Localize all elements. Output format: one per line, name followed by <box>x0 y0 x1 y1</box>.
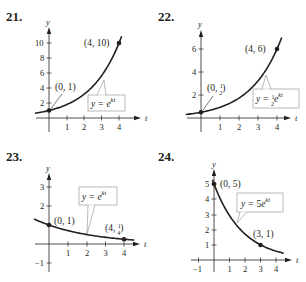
x-axis-arrow-icon <box>134 116 141 120</box>
point-0-1 <box>47 108 52 113</box>
svg-text:3: 3 <box>100 122 104 132</box>
svg-text:10: 10 <box>35 38 44 48</box>
y-axis-label: y <box>45 17 50 27</box>
point-label: (3, 1) <box>253 229 274 240</box>
svg-text:8: 8 <box>40 53 44 63</box>
graph-23: 23. t y 1 2 3 4 −1 2 3 (0, 1) ( <box>0 141 153 282</box>
graph-24: 24. t y −1 1 2 3 4 1 2 3 4 <box>153 141 306 282</box>
point-0-half <box>199 110 204 115</box>
point-0-5 <box>212 182 217 187</box>
svg-text:2: 2 <box>82 122 86 132</box>
svg-text:2: 2 <box>40 201 44 211</box>
y-axis-arrow-icon <box>212 169 216 176</box>
svg-text:4: 4 <box>205 194 210 204</box>
y-ticks: 2 4 6 <box>192 44 204 100</box>
svg-text:2: 2 <box>85 248 89 258</box>
problem-number: 24. <box>158 149 174 164</box>
graph-21-svg: 21. t y 1 2 3 4 2 4 6 8 1 <box>0 0 153 141</box>
point-label: (4, 6) <box>245 44 266 55</box>
point-3-1 <box>258 243 263 248</box>
svg-text:2: 2 <box>192 90 196 100</box>
svg-text:4: 4 <box>275 122 280 132</box>
callout-pointer <box>262 75 271 89</box>
graph-22-svg: 22. t y 1 2 3 4 2 4 6 (0, 12) (4, <box>153 0 306 141</box>
x-axis-arrow-icon <box>133 242 140 246</box>
svg-text:5: 5 <box>205 179 209 189</box>
svg-text:−1: −1 <box>193 264 202 274</box>
graph-24-svg: 24. t y −1 1 2 3 4 1 2 3 4 <box>153 141 306 282</box>
svg-text:1: 1 <box>228 264 232 274</box>
y-axis-label: y <box>45 163 50 173</box>
svg-text:2: 2 <box>205 225 209 235</box>
svg-text:1: 1 <box>205 240 209 250</box>
x-axis-label: t <box>144 239 147 249</box>
x-axis-label: t <box>296 255 299 265</box>
y-axis-arrow-icon <box>47 173 51 180</box>
svg-text:4: 4 <box>274 264 279 274</box>
problem-number: 21. <box>6 9 22 24</box>
svg-text:6: 6 <box>40 68 44 78</box>
x-axis-label: t <box>295 113 298 123</box>
callout-pointer <box>97 80 106 95</box>
svg-text:1: 1 <box>66 248 70 258</box>
leader-line <box>203 96 213 110</box>
svg-text:6: 6 <box>192 44 196 54</box>
svg-text:1: 1 <box>218 122 222 132</box>
callout-pointer <box>87 205 95 234</box>
point-label: (4, 10) <box>84 38 109 49</box>
x-axis-arrow-icon <box>284 116 291 120</box>
point-4-10 <box>117 41 122 46</box>
y-axis-arrow-icon <box>47 27 51 34</box>
graph-23-svg: 23. t y 1 2 3 4 −1 2 3 (0, 1) ( <box>0 141 153 282</box>
point-4-6 <box>275 47 280 52</box>
problem-number: 23. <box>6 149 22 164</box>
y-axis-label: y <box>211 159 216 169</box>
svg-text:4: 4 <box>117 122 122 132</box>
point-label: (0, 5) <box>220 179 241 190</box>
graph-22: 22. t y 1 2 3 4 2 4 6 (0, 12) (4, <box>153 0 306 141</box>
svg-text:2: 2 <box>40 98 44 108</box>
graph-21: 21. t y 1 2 3 4 2 4 6 8 1 <box>0 0 153 141</box>
svg-text:−1: −1 <box>35 258 44 268</box>
svg-text:3: 3 <box>40 182 44 192</box>
x-axis-label: t <box>145 113 148 123</box>
y-axis-label: y <box>197 19 202 29</box>
svg-text:3: 3 <box>259 264 263 274</box>
svg-text:4: 4 <box>122 248 127 258</box>
point-label: (0, 1) <box>55 82 76 93</box>
point-0-1 <box>47 223 52 228</box>
point-label: (4, 14) <box>105 223 123 236</box>
svg-text:4: 4 <box>40 83 45 93</box>
svg-text:3: 3 <box>104 248 108 258</box>
point-label: (0, 12) <box>207 83 225 96</box>
svg-text:3: 3 <box>256 122 260 132</box>
y-axis-arrow-icon <box>199 30 203 37</box>
callout-pointer <box>237 212 247 223</box>
svg-text:1: 1 <box>65 122 69 132</box>
svg-text:3: 3 <box>205 210 209 220</box>
y-ticks: 1 2 3 4 5 <box>205 179 217 250</box>
point-4-quarter <box>122 237 127 242</box>
x-axis-arrow-icon <box>285 258 292 262</box>
point-label: (0, 1) <box>54 216 75 227</box>
svg-text:2: 2 <box>237 122 241 132</box>
problem-number: 22. <box>158 9 174 24</box>
svg-text:4: 4 <box>192 67 197 77</box>
svg-text:2: 2 <box>243 264 247 274</box>
exponential-curve <box>212 180 283 253</box>
